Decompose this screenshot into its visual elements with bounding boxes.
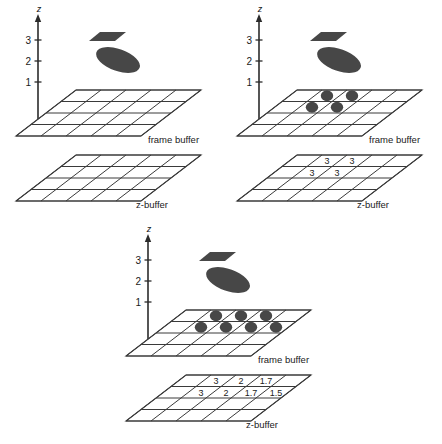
panel-canvas-c: z321frame buffer321.7321.71.5z-buffer xyxy=(110,220,331,444)
frame-buffer-label: frame buffer xyxy=(258,354,309,365)
z-axis-tick-label: 2 xyxy=(246,56,252,67)
z-buffer-value: 3 xyxy=(309,168,314,178)
frame-buffer-label: frame buffer xyxy=(369,134,420,145)
z-axis-label: z xyxy=(257,4,263,14)
polygon-ellipse-shape xyxy=(314,42,365,78)
z-axis-label: z xyxy=(36,4,42,14)
pixel-dot xyxy=(346,90,358,101)
z-buffer-value: 3 xyxy=(324,156,329,166)
z-axis-arrow xyxy=(145,234,151,242)
z-axis-arrow xyxy=(35,14,41,22)
z-buffer-value: 2 xyxy=(238,376,243,386)
scene-polygons xyxy=(310,32,364,78)
polygon-ellipse-shape xyxy=(203,262,254,298)
z-axis-tick-label: 2 xyxy=(25,56,31,67)
z-axis: z321 xyxy=(25,4,41,124)
z-buffer-value: 3 xyxy=(213,376,218,386)
z-buffer-value: 3 xyxy=(334,168,339,178)
pixel-dot xyxy=(210,310,222,321)
panel-empty-buffers: z321frame bufferz-buffer xyxy=(0,0,221,224)
z-buffer-value: 1.7 xyxy=(260,376,273,386)
pixel-dot xyxy=(331,102,343,113)
panel-after-first-polygon: z321frame buffer3333z-buffer xyxy=(221,0,442,224)
pixel-dot xyxy=(235,310,247,321)
z-axis-tick-label: 3 xyxy=(135,255,141,266)
pixel-dot xyxy=(270,322,282,333)
z-axis-tick-label: 3 xyxy=(246,35,252,46)
pixel-dot xyxy=(245,322,257,333)
z-buffer-value: 1.7 xyxy=(245,388,258,398)
frame-buffer-label: frame buffer xyxy=(148,134,199,145)
polygon-ellipse-shape xyxy=(93,42,144,78)
z-buffer-label: z-buffer xyxy=(136,199,168,210)
z-buffer-label: z-buffer xyxy=(246,419,278,430)
pixel-dot xyxy=(321,90,333,101)
z-axis-tick-label: 1 xyxy=(135,297,141,308)
panel-canvas-a: z321frame bufferz-buffer xyxy=(0,0,221,224)
z-buffer-value: 1.5 xyxy=(270,388,283,398)
frame-buffer-grid xyxy=(16,90,201,136)
z-axis-label: z xyxy=(146,224,152,234)
pixel-dot xyxy=(260,310,272,321)
scene-polygons xyxy=(89,32,143,78)
z-buffer-label: z-buffer xyxy=(357,199,389,210)
z-axis-tick-label: 2 xyxy=(135,276,141,287)
z-buffer-value: 3 xyxy=(198,388,203,398)
z-buffer-grid xyxy=(16,155,201,201)
panel-canvas-b: z321frame buffer3333z-buffer xyxy=(221,0,442,224)
z-buffer-value: 3 xyxy=(349,156,354,166)
z-axis: z321 xyxy=(135,224,151,344)
polygon-quad-shape xyxy=(310,32,347,41)
z-axis-tick-label: 1 xyxy=(25,77,31,88)
pixel-dot xyxy=(195,322,207,333)
pixel-dot xyxy=(220,322,232,333)
zbuffer-figure: z321frame bufferz-buffer z321frame buffe… xyxy=(0,0,442,444)
z-axis: z321 xyxy=(246,4,262,124)
z-buffer-value: 2 xyxy=(223,388,228,398)
polygon-quad-shape xyxy=(89,32,126,41)
z-axis-tick-label: 1 xyxy=(246,77,252,88)
pixel-dot xyxy=(306,102,318,113)
polygon-quad-shape xyxy=(199,252,236,261)
panel-after-second-polygon: z321frame buffer321.7321.71.5z-buffer xyxy=(110,220,331,444)
scene-polygons xyxy=(199,252,253,298)
z-axis-arrow xyxy=(256,14,262,22)
z-axis-tick-label: 3 xyxy=(25,35,31,46)
